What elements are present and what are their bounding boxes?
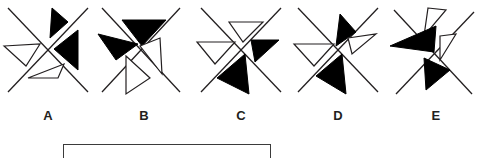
triangle-bottom-white — [126, 56, 150, 94]
triangle-bottom-black — [424, 58, 450, 90]
answer-box[interactable] — [63, 144, 271, 158]
option-figure-c[interactable] — [193, 0, 289, 100]
triangle-right-black — [251, 40, 279, 62]
option-figure-e[interactable] — [388, 0, 484, 100]
option-figure-d[interactable] — [290, 0, 386, 100]
pinwheel-figure-c-svg — [193, 0, 289, 100]
triangle-left-black — [98, 34, 138, 60]
triangle-right-white — [348, 34, 376, 54]
triangle-left-white — [197, 42, 235, 64]
pinwheel-figure-e-svg — [388, 0, 484, 100]
pinwheel-figure-a-svg — [0, 0, 96, 100]
triangle-right-black — [54, 30, 78, 70]
triangle-right-white — [440, 34, 456, 60]
option-figure-b[interactable] — [96, 0, 192, 100]
pinwheel-figure-b-svg — [96, 0, 192, 100]
triangle-top-black — [50, 8, 68, 38]
option-label-c: C — [193, 108, 289, 123]
pinwheel-figure-d-svg — [290, 0, 386, 100]
figure-stage: A B C D — [0, 0, 488, 158]
triangle-bottom-black — [217, 54, 249, 94]
option-label-d: D — [290, 108, 386, 123]
triangle-left-white — [294, 44, 334, 66]
option-label-a: A — [0, 108, 96, 123]
triangle-left-white — [4, 44, 40, 66]
option-label-e: E — [388, 108, 484, 123]
option-label-b: B — [96, 108, 192, 123]
triangle-bottom-black — [316, 54, 346, 94]
option-figure-a[interactable] — [0, 0, 96, 100]
